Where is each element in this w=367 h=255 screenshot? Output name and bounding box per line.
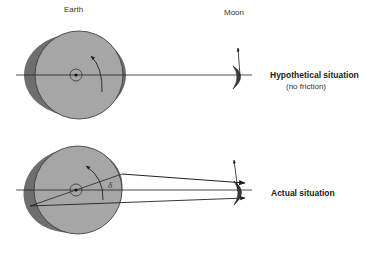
actual-panel [14, 136, 252, 243]
moon-label: Moon [224, 8, 244, 17]
earth-center-dot [75, 189, 78, 192]
moon-motion-arrow-icon [234, 160, 238, 191]
earth-center-dot [75, 74, 78, 77]
hypothetical-subtitle: (no friction) [286, 82, 326, 91]
actual-title: Actual situation [271, 188, 335, 198]
moon-crescent [234, 181, 242, 205]
tidal-diagram [0, 0, 367, 255]
lag-angle-label: δ [108, 180, 112, 190]
hypothetical-title: Hypothetical situation [270, 70, 359, 80]
earth-label: Earth [64, 5, 83, 14]
hypothetical-panel [16, 31, 252, 119]
near-bulge-force-arrow-icon [122, 174, 245, 183]
